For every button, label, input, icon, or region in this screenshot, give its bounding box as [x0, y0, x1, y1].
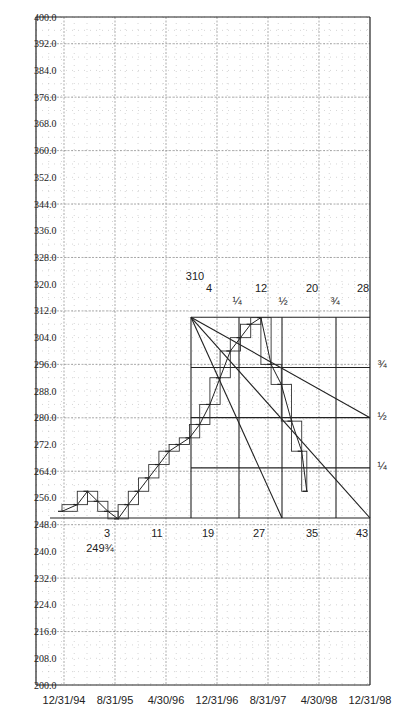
x-tick-label: 4/30/98: [301, 694, 338, 706]
y-tick-label: 376.0: [34, 92, 57, 103]
count-label: 4: [206, 282, 212, 294]
y-tick-label: 232.0: [34, 573, 57, 584]
y-tick-label: 336.0: [34, 225, 57, 236]
price-series: [58, 318, 308, 519]
y-tick-label: 280.0: [34, 412, 57, 423]
y-tick-label: 216.0: [34, 626, 57, 637]
y-tick-label: 288.0: [34, 386, 57, 397]
count-label: 19: [202, 527, 214, 539]
y-tick-label: 328.0: [34, 252, 57, 263]
y-tick-label: 296.0: [34, 359, 57, 370]
count-label: 35: [306, 527, 318, 539]
x-tick-label: 4/30/96: [148, 694, 185, 706]
price-fraction-label: ¼: [377, 460, 387, 472]
y-tick-label: 360.0: [34, 145, 57, 156]
y-tick-label: 352.0: [34, 172, 57, 183]
axes: 400.0392.0384.0376.0368.0360.0352.0344.0…: [34, 12, 391, 707]
y-tick-label: 256.0: [34, 492, 57, 503]
count-label: 249¾: [86, 542, 114, 554]
count-label: 27: [253, 527, 265, 539]
count-label: 3: [104, 527, 110, 539]
y-tick-label: 304.0: [34, 332, 57, 343]
y-tick-label: 224.0: [34, 599, 57, 610]
count-label: 12: [255, 282, 267, 294]
y-tick-label: 200.0: [34, 680, 57, 691]
y-tick-label: 264.0: [34, 466, 57, 477]
time-fraction-label: ¼: [232, 295, 242, 307]
y-tick-label: 312.0: [34, 305, 57, 316]
y-tick-label: 368.0: [34, 118, 57, 129]
y-tick-label: 400.0: [34, 12, 57, 23]
count-label: 28: [357, 282, 369, 294]
grid: [36, 17, 370, 685]
y-tick-label: 392.0: [34, 38, 57, 49]
x-tick-label: 8/31/97: [250, 694, 287, 706]
x-tick-label: 12/31/94: [43, 694, 86, 706]
count-label: 11: [151, 527, 162, 539]
y-tick-label: 320.0: [34, 279, 57, 290]
count-label: 310: [186, 270, 204, 282]
time-fraction-label: ¾: [330, 295, 340, 307]
x-tick-label: 12/31/96: [196, 694, 239, 706]
x-tick-label: 12/31/98: [349, 694, 392, 706]
price-fraction-label: ¾: [377, 358, 387, 370]
count-label: 43: [356, 527, 368, 539]
count-label: 20: [306, 282, 318, 294]
y-tick-label: 344.0: [34, 199, 57, 210]
y-tick-label: 208.0: [34, 653, 57, 664]
y-tick-label: 248.0: [34, 519, 57, 530]
time-fraction-label: ½: [278, 295, 287, 307]
y-tick-label: 240.0: [34, 546, 57, 557]
y-tick-label: 272.0: [34, 439, 57, 450]
x-tick-label: 8/31/95: [97, 694, 134, 706]
y-tick-label: 384.0: [34, 65, 57, 76]
price-fraction-label: ½: [377, 410, 386, 422]
chart-svg: 400.0392.0384.0376.0368.0360.0352.0344.0…: [0, 0, 398, 713]
